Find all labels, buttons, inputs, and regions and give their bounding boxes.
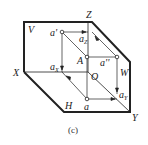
label-Z: Z [86,9,92,20]
label-W: W [120,67,130,78]
label-aY: aY [119,89,128,101]
label-aX: aX [50,61,59,73]
label-aZ: aZ [79,33,88,45]
point-A [85,55,89,59]
point-a-double-prime [115,55,119,59]
label-Y: Y [132,112,139,123]
caption: (c) [68,125,78,135]
label-a-double-prime: a'' [100,57,110,68]
label-X: X [12,67,20,78]
label-A: A [76,55,84,66]
label-V: V [28,24,36,35]
label-a-prime: a' [50,27,58,38]
projection-diagram: V Z X O W H Y a' A a'' a aZ aX aY (c) [0,0,148,145]
label-H: H [64,100,73,111]
point-a-prime [60,30,64,34]
label-a: a [84,101,89,112]
label-O: O [91,71,98,82]
